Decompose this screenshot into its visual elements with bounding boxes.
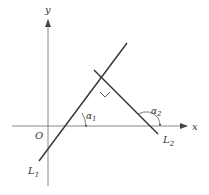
coordinate-diagram: y x O L1 L2 α1 α2 xyxy=(0,0,209,195)
line-l2 xyxy=(94,70,158,134)
origin-label: O xyxy=(35,130,43,141)
label-l1: L1 xyxy=(27,165,39,179)
y-axis-label: y xyxy=(44,4,51,15)
right-angle-marker xyxy=(100,92,110,97)
label-alpha2: α2 xyxy=(151,106,162,118)
x-axis-label: x xyxy=(192,121,198,132)
label-alpha1: α1 xyxy=(86,111,97,123)
line-l1 xyxy=(39,43,127,161)
diagram-canvas: y x O L1 L2 α1 α2 xyxy=(0,0,209,195)
label-l2: L2 xyxy=(162,134,175,148)
